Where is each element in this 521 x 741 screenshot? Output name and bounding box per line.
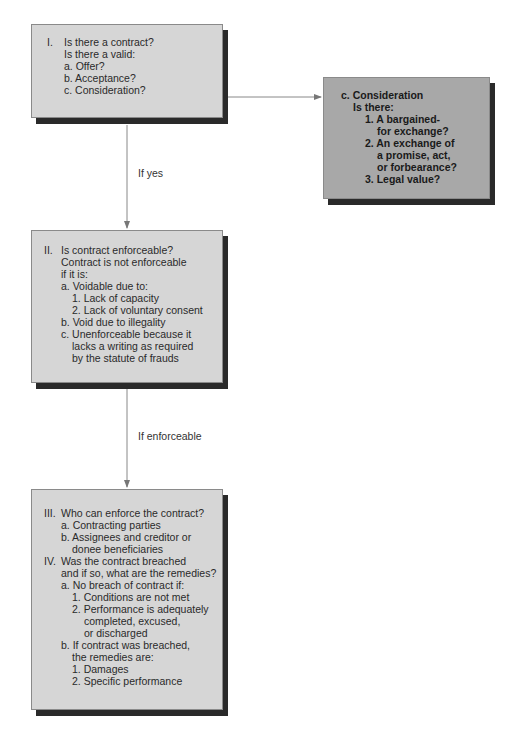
list-item: lacks a writing as required	[72, 340, 193, 352]
question-text: Is there a valid:	[64, 48, 135, 60]
list-item: for exchange?	[377, 125, 449, 137]
list-item: b. Assignees and creditor or	[61, 531, 191, 543]
list-item: 1. Damages	[72, 663, 129, 675]
list-item: 2. An exchange of	[365, 137, 454, 149]
roman-numeral: I.	[47, 36, 53, 48]
list-item: a. No breach of contract if:	[61, 579, 184, 591]
list-item: a. Voidable due to:	[61, 280, 148, 292]
list-item: a. Contracting parties	[61, 519, 161, 531]
question-text: if it is:	[61, 268, 88, 280]
list-item: 3. Legal value?	[365, 173, 440, 185]
box-consideration: c. Consideration Is there: 1. A bargaine…	[323, 77, 490, 199]
question-text: and if so, what are the remedies?	[61, 567, 216, 579]
list-item: b. If contract was breached,	[61, 639, 190, 651]
edge-label-if-yes: If yes	[138, 167, 163, 179]
list-item: the remedies are:	[72, 651, 154, 663]
list-item: by the statute of frauds	[72, 352, 179, 364]
list-item: b. Void due to illegality	[61, 316, 166, 328]
edge-label-if-enforceable: If enforceable	[138, 430, 202, 442]
list-item: 1. Lack of capacity	[72, 292, 159, 304]
list-item: Is there:	[353, 101, 394, 113]
list-item: completed, excused,	[84, 615, 180, 627]
list-item: a promise, act,	[377, 149, 451, 161]
roman-numeral: III.	[44, 507, 56, 519]
list-item: 2. Lack of voluntary consent	[72, 304, 203, 316]
list-item: donee beneficiaries	[72, 543, 163, 555]
list-item: b. Acceptance?	[64, 72, 136, 84]
question-text: Who can enforce the contract?	[61, 507, 204, 519]
heading: c. Consideration	[341, 89, 423, 101]
list-item: 1. A bargained-	[365, 113, 440, 125]
list-item: a. Offer?	[64, 60, 105, 72]
box-is-contract-enforceable: II. Is contract enforceable? Contract is…	[31, 230, 223, 383]
list-item: or forbearance?	[377, 161, 457, 173]
list-item: c. Unenforceable because it	[61, 328, 191, 340]
list-item: or discharged	[84, 627, 148, 639]
question-text: Was the contract breached	[61, 555, 186, 567]
list-item: 1. Conditions are not met	[72, 591, 189, 603]
roman-numeral: II.	[44, 244, 53, 256]
question-text: Contract is not enforceable	[61, 256, 187, 268]
question-text: Is contract enforceable?	[61, 244, 173, 256]
question-text: Is there a contract?	[64, 36, 154, 48]
roman-numeral: IV.	[44, 555, 56, 567]
box-enforcement-and-remedies: III. Who can enforce the contract? a. Co…	[31, 489, 223, 710]
list-item: 2. Specific performance	[72, 675, 182, 687]
list-item: 2. Performance is adequately	[72, 603, 209, 615]
list-item: c. Consideration?	[64, 84, 146, 96]
box-is-there-contract: I. Is there a contract? Is there a valid…	[31, 24, 223, 118]
